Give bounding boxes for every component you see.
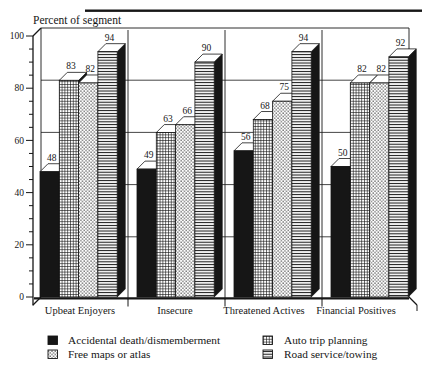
legend-swatch-grid [263,336,273,345]
bar-front-face [137,169,156,297]
top-left-depth-edge [33,28,41,36]
category-label: Upbeat Enjoyers [45,305,115,316]
bar-value-label: 90 [202,43,212,53]
y-tick-label: 80 [15,83,25,93]
bar-front-face [195,62,214,297]
title-underline-rule [85,10,422,12]
bar-value-label: 94 [299,33,309,43]
bar-side-face [117,44,125,297]
bar-group-3 [234,44,319,297]
bar-group-4 [331,49,416,297]
legend-item: Free maps or atlas [48,348,151,360]
segment-benefits-chart-figure: Percent of segment0204060801004849565083… [0,0,422,365]
bar-chart: Percent of segment0204060801004849565083… [0,0,422,365]
bar-front-face [40,172,59,297]
bar-value-label: 56 [241,132,251,142]
bar-group-2 [137,54,222,297]
bar-side-face [214,54,222,297]
legend-label: Auto trip planning [284,334,368,346]
bar [98,44,125,297]
bar-front-face [234,151,253,297]
bar-front-face [370,83,389,297]
bar [389,49,416,297]
y-tick-label: 20 [15,240,25,250]
bar-value-label: 68 [260,101,270,111]
category-label: Financial Positives [316,305,396,316]
legend-swatch-hlines [263,350,273,359]
bar-value-label: 48 [47,153,57,163]
bottom-right-depth-edge [409,297,417,305]
y-axis-ticks [26,36,33,297]
bar-front-face [350,83,369,297]
legend-swatch-solid [48,336,58,345]
bar-front-face [389,57,408,297]
y-tick-label: 100 [10,31,25,41]
bar-value-label: 82 [86,64,96,74]
legend-item: Road service/towing [263,348,378,360]
legend-item: Accidental death/dismemberment [48,334,221,346]
bar-front-face [156,133,175,297]
bar [195,54,222,297]
legend-label: Free maps or atlas [68,348,151,360]
y-axis-title: Percent of segment [33,14,122,27]
bar-front-face [331,167,350,298]
bar-group-1 [40,44,125,297]
legend-swatch-dots [48,350,58,359]
bar-front-face [176,125,195,297]
legend-label: Road service/towing [284,348,378,360]
bar-value-label: 94 [105,33,115,43]
bar-value-label: 66 [183,106,193,116]
legend: Accidental death/dismembermentFree maps … [48,334,378,360]
y-tick-label: 0 [19,292,24,302]
bar-front-face [59,80,78,297]
bar-value-label: 63 [163,114,173,124]
bar-side-face [408,49,416,297]
bar-value-label: 49 [144,150,154,160]
bar-value-label: 50 [338,148,348,158]
category-label: Insecure [157,305,193,316]
legend-item: Auto trip planning [263,334,368,346]
bar-value-label: 82 [357,64,367,74]
bar-value-label: 82 [377,64,387,74]
bar-front-face [292,52,311,297]
bar-side-face [311,44,319,297]
bar-value-label: 83 [66,61,76,71]
category-label: Threatened Actives [223,305,304,316]
bar-front-face [79,83,98,297]
bar-front-face [273,101,292,297]
bar-value-label: 75 [280,82,290,92]
legend-label: Accidental death/dismemberment [68,334,221,346]
y-tick-label: 40 [15,188,25,198]
bar-front-face [98,52,117,297]
bar-front-face [253,120,272,297]
y-tick-label: 60 [15,136,25,146]
bar [292,44,319,297]
bar-value-label: 92 [396,38,406,48]
